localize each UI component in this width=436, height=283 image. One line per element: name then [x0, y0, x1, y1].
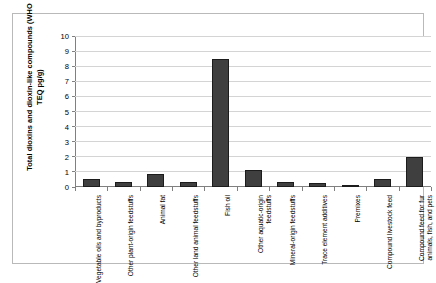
x-tick-label: Compound livestock feed [386, 195, 400, 283]
y-tick-label: 0 [65, 183, 69, 192]
x-tick-label: Other land animal feedstuffs [192, 195, 206, 283]
x-tick-mark [431, 187, 432, 191]
y-tick-mark [72, 141, 75, 142]
x-tick-mark [366, 187, 367, 191]
y-tick-mark [72, 156, 75, 157]
gridline [75, 96, 431, 97]
bar [277, 182, 294, 187]
bar [115, 182, 132, 187]
gridline [75, 36, 431, 37]
x-tick-mark [334, 187, 335, 191]
x-tick-mark [172, 187, 173, 191]
x-tick-mark [140, 187, 141, 191]
bar [374, 179, 391, 187]
y-tick-label: 5 [65, 107, 69, 116]
x-tick-label: Other aquatic-origin feedstuffs [257, 195, 271, 283]
plot-area: 012345678910 Vegetable oils and byproduc… [75, 36, 431, 187]
gridline [75, 126, 431, 127]
y-tick-mark [72, 126, 75, 127]
x-tick-mark [237, 187, 238, 191]
gridline [75, 66, 431, 67]
x-tick-label: Fish oil [224, 195, 238, 283]
bar [309, 183, 326, 187]
y-tick-mark [72, 96, 75, 97]
y-tick-label: 9 [65, 47, 69, 56]
gridline [75, 141, 431, 142]
bar [406, 157, 423, 187]
bar [147, 174, 164, 187]
gridline [75, 111, 431, 112]
y-tick-label: 7 [65, 77, 69, 86]
x-tick-label: Animal fat [159, 195, 173, 283]
x-tick-mark [302, 187, 303, 191]
y-tick-label: 6 [65, 92, 69, 101]
x-tick-label: Premixes [354, 195, 368, 283]
x-tick-label: Mineral-origin feedstuffs [289, 195, 303, 283]
y-tick-mark [72, 66, 75, 67]
chart-frame: Total dioxins and dioxin-like compounds … [12, 13, 424, 264]
bar [180, 182, 197, 187]
bar [83, 179, 100, 187]
bar [342, 185, 359, 187]
x-tick-mark [204, 187, 205, 191]
y-tick-mark [72, 81, 75, 82]
y-tick-mark [72, 51, 75, 52]
y-tick-mark [72, 171, 75, 172]
x-tick-label: Compound feed for fur animals, fish, and… [418, 195, 432, 283]
bar [245, 170, 262, 187]
x-tick-label: Trace element additives [321, 195, 335, 283]
y-tick-label: 4 [65, 122, 69, 131]
y-tick-mark [72, 36, 75, 37]
y-tick-label: 8 [65, 62, 69, 71]
gridline [75, 51, 431, 52]
bar [212, 59, 229, 187]
y-tick-label: 10 [61, 32, 69, 41]
x-tick-mark [75, 187, 76, 191]
y-axis-title: Total dioxins and dioxin-like compounds … [25, 2, 51, 172]
y-tick-mark [72, 111, 75, 112]
y-tick-label: 2 [65, 152, 69, 161]
x-tick-mark [399, 187, 400, 191]
x-tick-label: Other plant-origin feedstuffs [127, 195, 141, 283]
gridline [75, 156, 431, 157]
x-tick-mark [107, 187, 108, 191]
gridline [75, 81, 431, 82]
y-tick-label: 3 [65, 137, 69, 146]
x-tick-label: Vegetable oils and byproducts [95, 195, 109, 283]
x-tick-mark [269, 187, 270, 191]
y-tick-label: 1 [65, 167, 69, 176]
